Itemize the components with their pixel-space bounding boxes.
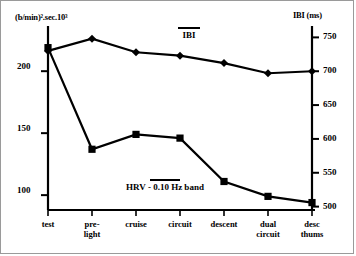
data-point-square [220, 178, 227, 185]
figure-container: (b/min)².sec.10³ IBI (ms) IBI HRV - 0.10… [0, 0, 354, 254]
right-tick-label: 500 [323, 202, 337, 211]
data-point-square [132, 131, 139, 138]
right-tick-label: 650 [323, 100, 337, 109]
category-label-line2: thums [286, 230, 338, 239]
data-point-square [264, 193, 271, 200]
data-point-diamond [220, 59, 228, 67]
data-point-diamond [88, 35, 96, 43]
data-point-diamond [132, 48, 140, 56]
left-tick-label: 200 [17, 62, 31, 71]
category-label-line1: circuit [168, 219, 191, 229]
category-label-line1: cruise [125, 219, 147, 229]
category-label-line2: light [66, 230, 118, 239]
data-point-diamond [264, 69, 272, 77]
data-point-square [88, 146, 95, 153]
right-tick-label: 600 [323, 134, 337, 143]
category-label: descthums [286, 220, 338, 238]
category-label-line1: pre- [85, 219, 100, 229]
data-point-square [308, 199, 315, 206]
chart-plot-area [1, 1, 355, 255]
right-tick-label: 750 [323, 32, 337, 41]
left-tick-label: 100 [17, 186, 31, 195]
series-line-square [48, 48, 312, 203]
data-point-square [44, 44, 51, 51]
category-label-line1: desc [304, 219, 320, 229]
left-tick-label: 150 [17, 124, 31, 133]
right-tick-label: 700 [323, 66, 337, 75]
data-point-square [176, 135, 183, 142]
category-label-line1: descent [211, 219, 238, 229]
category-label-line1: dual [260, 219, 276, 229]
category-label-line1: test [42, 219, 55, 229]
data-point-diamond [176, 52, 184, 60]
right-tick-label: 550 [323, 168, 337, 177]
series-group [44, 35, 316, 206]
data-point-diamond [308, 67, 316, 75]
